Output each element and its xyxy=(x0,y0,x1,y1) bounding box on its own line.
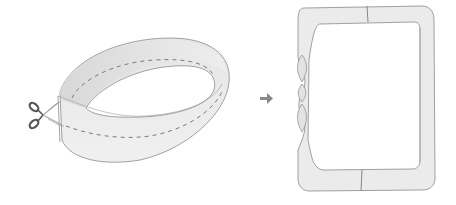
right-arrow-icon xyxy=(260,93,273,104)
illustration xyxy=(0,0,456,205)
twisted-frame xyxy=(298,6,436,191)
frame-band xyxy=(298,6,435,191)
paper-loop xyxy=(58,38,229,162)
